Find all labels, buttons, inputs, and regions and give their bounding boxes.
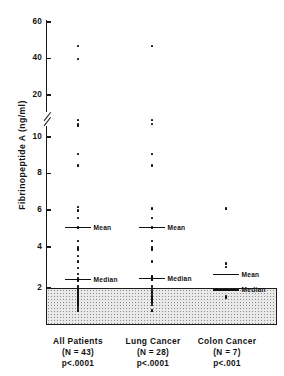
data-point: [77, 164, 80, 167]
data-point: [77, 248, 80, 251]
data-point: [151, 260, 154, 263]
y-tick-mark: [46, 94, 51, 95]
y-tick-label: 40: [22, 54, 42, 62]
median-marker-label: Median: [94, 276, 118, 283]
data-point: [77, 206, 80, 209]
data-point: [151, 309, 154, 312]
data-point: [151, 164, 154, 167]
y-tick-label: 60: [22, 18, 42, 26]
data-point: [151, 248, 154, 251]
y-axis-spine-upper: [46, 20, 47, 116]
data-point: [77, 240, 80, 243]
data-point: [77, 260, 80, 263]
normal-range-band: [46, 288, 277, 325]
y-tick-mark: [46, 246, 51, 247]
median-marker-line: [65, 279, 91, 280]
axis-break-icon: [42, 112, 53, 125]
mean-marker-label: Mean: [168, 224, 186, 231]
median-marker-label: Median: [242, 286, 266, 293]
median-marker-label: Median: [168, 275, 192, 282]
data-point: [151, 45, 154, 48]
data-point: [225, 207, 228, 210]
category-caption-colon-cancer: Colon Cancer (N = 7) p<.001: [178, 336, 276, 369]
fibrinopeptide-scatter-chart: Fibrinopeptide A (ng/ml) 604020108642 Me…: [0, 0, 284, 376]
data-point: [77, 58, 80, 61]
mean-marker-line: [139, 227, 165, 228]
y-tick-mark: [46, 209, 51, 210]
category-name: Colon Cancer: [178, 336, 276, 347]
data-point: [151, 240, 154, 243]
category-sample-size: (N = 7): [178, 347, 276, 358]
y-tick-label: 2: [22, 284, 42, 292]
mean-marker-label: Mean: [242, 271, 260, 278]
data-point: [77, 267, 80, 270]
data-point: [151, 119, 154, 122]
data-point: [151, 153, 154, 156]
y-tick-mark: [46, 58, 51, 59]
y-tick-mark: [46, 136, 51, 137]
y-tick-label: 8: [22, 169, 42, 177]
data-point: [151, 123, 154, 126]
data-point: [77, 209, 80, 212]
y-tick-mark: [46, 21, 51, 22]
data-point: [77, 273, 80, 276]
y-tick-label: 10: [22, 133, 42, 141]
mean-marker-line: [213, 274, 239, 275]
data-point: [77, 255, 80, 258]
y-tick-label: 20: [22, 91, 42, 99]
data-point: [77, 309, 80, 312]
median-marker-line: [139, 278, 165, 279]
data-point: [77, 153, 80, 156]
data-point: [151, 217, 154, 220]
data-point: [151, 207, 154, 210]
category-p-value: p<.001: [178, 358, 276, 369]
data-point: [77, 124, 80, 127]
y-tick-label: 4: [22, 243, 42, 251]
mean-marker-label: Mean: [94, 224, 112, 231]
y-tick-mark: [46, 173, 51, 174]
y-tick-label: 6: [22, 206, 42, 214]
data-point: [77, 119, 80, 122]
data-point: [77, 217, 80, 220]
data-point: [225, 266, 228, 269]
mean-marker-line: [65, 227, 91, 228]
data-point: [77, 45, 80, 48]
data-point: [225, 262, 228, 265]
median-marker-line: [213, 289, 239, 290]
